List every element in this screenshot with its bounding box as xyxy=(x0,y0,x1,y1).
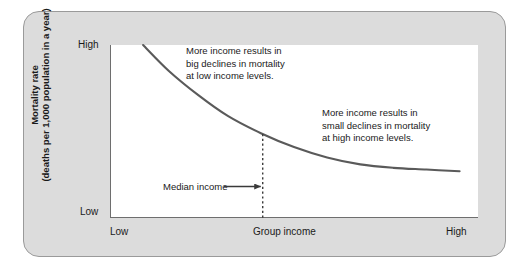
annotation-low-income-line2: big declines in mortality xyxy=(186,58,285,71)
median-income-label: Median income xyxy=(163,181,227,192)
y-axis-title-line2: (deaths per 1,000 population in a year) xyxy=(40,8,51,181)
annotation-low-income-line3: at low income levels. xyxy=(186,70,285,83)
x-tick-low: Low xyxy=(110,226,128,237)
y-axis-title: Mortality rate (deaths per 1,000 populat… xyxy=(23,5,57,185)
y-tick-high: High xyxy=(78,39,99,50)
annotation-high-income-line2: small declines in mortality xyxy=(322,120,430,133)
x-tick-high: High xyxy=(446,226,467,237)
annotation-low-income-line1: More income results in xyxy=(186,45,285,58)
annotation-high-income-line1: More income results in xyxy=(322,107,430,120)
y-axis-title-line1: Mortality rate xyxy=(29,65,40,125)
y-tick-low: Low xyxy=(80,206,98,217)
annotation-high-income-line3: at high income levels. xyxy=(322,132,430,145)
annotation-low-income: More income results in big declines in m… xyxy=(186,45,285,83)
x-axis-title: Group income xyxy=(253,226,316,237)
figure-container: Mortality rate (deaths per 1,000 populat… xyxy=(0,0,527,268)
annotation-high-income: More income results in small declines in… xyxy=(322,107,430,145)
